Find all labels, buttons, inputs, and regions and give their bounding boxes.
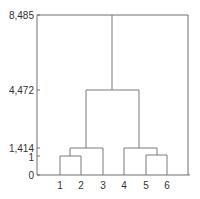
y-tick-label: 0: [28, 170, 34, 181]
leaf-label: 4: [121, 180, 127, 191]
leaf-label: 6: [164, 180, 170, 191]
leaf-label: 5: [143, 180, 149, 191]
link-12-3: [70, 148, 103, 175]
link-5-6: [146, 155, 167, 175]
leaf-label: 2: [78, 180, 84, 191]
dendrogram-chart: 8,485 4,472 1,414 1 0 1 2 3 4 5 6: [0, 0, 200, 199]
link-root: [86, 90, 139, 148]
y-tick-label: 1: [28, 152, 34, 163]
y-tick-label: 8,485: [9, 10, 34, 21]
link-4-56: [124, 148, 157, 175]
link-1-2: [60, 156, 81, 175]
leaf-label: 1: [57, 180, 63, 191]
leaf-label: 3: [100, 180, 106, 191]
y-tick-label: 4,472: [9, 85, 34, 96]
